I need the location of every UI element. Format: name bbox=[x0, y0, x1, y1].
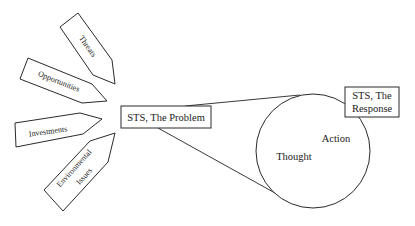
problem-box: STS, The Problem bbox=[121, 106, 211, 128]
thought-label: Thought bbox=[276, 151, 312, 162]
response-box-label-line1: STS, The bbox=[352, 90, 392, 101]
problem-box-label: STS, The Problem bbox=[127, 112, 205, 123]
action-label: Action bbox=[322, 133, 351, 144]
environmental-issues-arrow-shape bbox=[44, 133, 115, 211]
environmental-issues-arrow: Environmental Issues bbox=[44, 133, 115, 211]
response-box: STS, The Response bbox=[345, 87, 399, 117]
response-box-label-line2: Response bbox=[352, 103, 393, 114]
sts-diagram: Action Thought Threats Opportunities Inv… bbox=[0, 0, 415, 226]
threats-arrow: Threats bbox=[60, 13, 115, 84]
